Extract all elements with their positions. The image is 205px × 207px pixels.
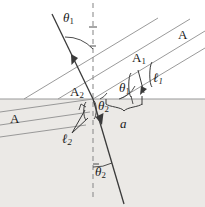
length-l1-label: ℓ1 <box>153 71 163 86</box>
wavefront-label-lower-left: A <box>10 112 19 125</box>
length-l2-subscript: 2 <box>67 137 71 147</box>
theta1-incident-label: θ1 <box>63 11 74 26</box>
wavefront-line-A1 <box>93 31 205 99</box>
wavefront-label-upper-right: A <box>178 28 187 41</box>
point-a1-subscript: 1 <box>141 56 145 66</box>
incident-ray-arrowhead <box>71 54 78 65</box>
theta1-incident-subscript: 1 <box>69 16 73 26</box>
theta1-wavefront-subscript: 1 <box>125 86 129 96</box>
l1-brace-right <box>150 62 152 87</box>
theta2-interface-subscript: 2 <box>104 104 108 114</box>
theta2-refracted-subscript: 2 <box>101 170 105 180</box>
l1-arrowhead <box>140 86 147 95</box>
theta1-wavefront-label: θ1 <box>119 81 130 96</box>
theta2-interface-label: θ2 <box>98 99 109 114</box>
point-a1-symbol: A <box>132 50 141 65</box>
distance-a-label: a <box>120 117 127 130</box>
point-a2-label: A2 <box>70 85 84 100</box>
point-a1-label: A1 <box>132 51 146 66</box>
point-a2-subscript: 2 <box>79 90 83 100</box>
length-l1-subscript: 1 <box>158 76 162 86</box>
point-a2-symbol: A <box>70 84 79 99</box>
refraction-wavefront-figure: θ1 A A1 ℓ1 θ1 A2 θ2 a A ℓ2 θ2 <box>0 0 205 207</box>
theta2-refracted-label: θ2 <box>95 165 106 180</box>
theta1-incident-arc <box>65 37 93 49</box>
length-l2-label: ℓ2 <box>62 132 72 147</box>
